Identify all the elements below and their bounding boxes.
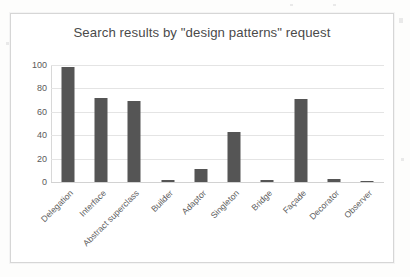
y-tick-label: 60 xyxy=(13,107,47,117)
bar[interactable] xyxy=(194,169,207,182)
bar[interactable] xyxy=(228,132,241,182)
x-tick-label-text: Delegation xyxy=(39,188,75,224)
x-label-slot: Bridge xyxy=(251,184,284,274)
x-axis: DelegationInterfaceAbstract superclassBu… xyxy=(51,184,384,274)
bar[interactable] xyxy=(294,99,307,182)
bar[interactable] xyxy=(61,67,74,182)
x-tick-label-text: Façade xyxy=(280,188,307,215)
x-label-slot: Decorator xyxy=(317,184,350,274)
scan-speckle xyxy=(399,18,403,23)
scan-speckle xyxy=(290,4,293,6)
scan-speckle xyxy=(401,158,404,161)
x-label-slot: Observer xyxy=(351,184,384,274)
y-tick-label: 0 xyxy=(13,177,47,187)
bar-slot xyxy=(317,65,350,182)
x-label-slot: Façade xyxy=(284,184,317,274)
x-label-slot: Abstract superclass xyxy=(118,184,151,274)
bar-slot xyxy=(284,65,317,182)
y-tick-label: 40 xyxy=(13,130,47,140)
y-tick-label: 80 xyxy=(13,83,47,93)
bar-slot xyxy=(184,65,217,182)
y-tick-label: 100 xyxy=(13,60,47,70)
bar-slot xyxy=(218,65,251,182)
x-tick-label-text: Adaptor xyxy=(180,188,208,216)
x-label-slot: Delegation xyxy=(51,184,84,274)
x-label-slot: Builder xyxy=(151,184,184,274)
y-axis: 100 80 60 40 20 0 xyxy=(11,65,47,182)
scan-speckle xyxy=(333,4,336,6)
x-label-slot: Singleton xyxy=(218,184,251,274)
scan-speckle xyxy=(6,42,9,45)
chart-title: Search results by "design patterns" requ… xyxy=(11,25,393,40)
bar[interactable] xyxy=(161,180,174,182)
x-tick-label-text: Bridge xyxy=(250,188,275,213)
x-label-slot: Adaptor xyxy=(184,184,217,274)
y-tick-label: 20 xyxy=(13,154,47,164)
bar-slot xyxy=(51,65,84,182)
x-tick-label-text: Builder xyxy=(149,188,175,214)
chart-container: Search results by "design patterns" requ… xyxy=(10,13,394,263)
